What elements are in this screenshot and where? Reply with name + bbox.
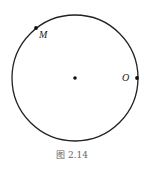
circle-diagram: M O bbox=[0, 0, 144, 171]
center-point bbox=[73, 76, 77, 80]
figure-caption: 图 2.14 bbox=[0, 148, 144, 161]
label-o: O bbox=[122, 72, 129, 83]
point-m bbox=[34, 26, 38, 30]
label-m: M bbox=[38, 29, 48, 40]
point-o bbox=[135, 76, 139, 80]
